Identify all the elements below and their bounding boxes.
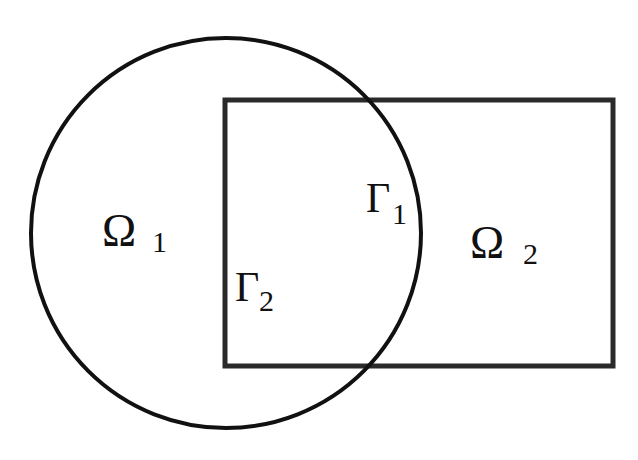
label-gamma1: Γ 1 — [366, 175, 407, 230]
label-omega1: Ω 1 — [102, 205, 167, 258]
gamma2-subscript: 2 — [259, 284, 274, 317]
omega2-symbol: Ω — [470, 217, 504, 268]
domain-diagram: Ω 1 Γ 1 Γ 2 Ω 2 — [0, 0, 638, 460]
gamma1-symbol: Γ — [366, 175, 390, 221]
gamma1-subscript: 1 — [392, 197, 407, 230]
gamma2-symbol: Γ — [235, 264, 259, 310]
label-gamma2: Γ 2 — [235, 264, 274, 317]
omega1-subscript: 1 — [152, 225, 167, 258]
label-omega2: Ω 2 — [470, 217, 538, 270]
omega2-subscript: 2 — [523, 237, 538, 270]
omega1-symbol: Ω — [102, 205, 136, 256]
